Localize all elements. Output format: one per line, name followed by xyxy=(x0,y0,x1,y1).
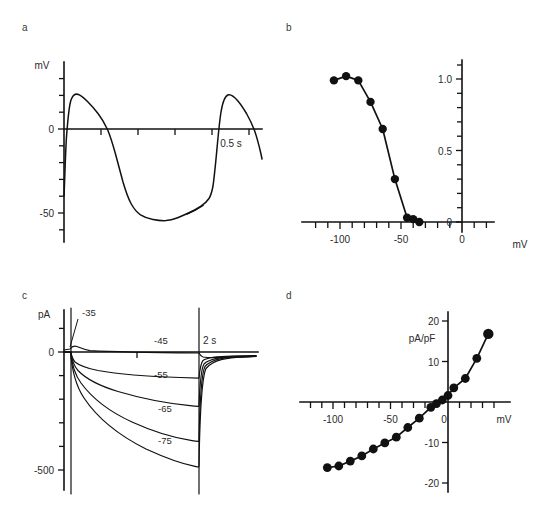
panel-d-x-axis-label: mV xyxy=(497,414,512,425)
panel-b-y-ticks xyxy=(456,65,462,222)
panel-d-xtick-minus50: -50 xyxy=(383,414,398,425)
data-point xyxy=(334,462,343,471)
panel-d: d xyxy=(272,262,547,522)
panel-a-y-ticks xyxy=(58,79,64,230)
data-point xyxy=(357,452,366,461)
panel-b-data-line xyxy=(334,76,419,222)
data-point xyxy=(379,125,387,133)
panel-a-ytick-minus50: -50 xyxy=(40,208,55,219)
data-point xyxy=(415,414,424,423)
data-point xyxy=(330,76,338,84)
panel-a-plot: mV 0 -50 0.5 s xyxy=(0,0,275,262)
panel-a-trace xyxy=(64,94,262,221)
panel-c-ytick-minus500: -500 xyxy=(34,465,54,476)
data-point xyxy=(391,175,399,183)
data-point xyxy=(472,354,481,363)
data-point xyxy=(483,329,493,339)
panel-c-y-ticks xyxy=(58,328,64,470)
panel-b-ytick-1: 1.0 xyxy=(438,74,452,85)
data-point xyxy=(346,457,355,466)
panel-c-trace-label-45: -45 xyxy=(154,335,168,346)
panel-d-x-ticks xyxy=(311,402,495,409)
panel-a-letter: a xyxy=(22,22,28,33)
panel-b: b xyxy=(272,0,547,262)
panel-d-xtick-0: 0 xyxy=(441,414,447,425)
panel-d-xtick-minus100: -100 xyxy=(323,414,343,425)
panel-c-trace-label-65: -65 xyxy=(158,403,172,414)
data-point xyxy=(366,98,374,106)
panel-c-scalebar-label: 2 s xyxy=(203,335,216,346)
panel-b-x-ticks xyxy=(316,222,487,229)
panel-b-xtick-minus100: -100 xyxy=(330,234,350,245)
data-point xyxy=(380,439,389,448)
figure-container: a xyxy=(0,0,547,522)
panel-b-data-points xyxy=(330,72,424,226)
panel-d-data-points xyxy=(323,329,494,472)
panel-d-ytick-minus10: -10 xyxy=(425,438,440,449)
panel-b-ytick-0: 0 xyxy=(446,217,452,228)
data-point xyxy=(461,374,470,383)
panel-d-ytick-20: 20 xyxy=(428,316,440,327)
panel-c-trace-label-35: -35 xyxy=(82,307,96,318)
panel-b-letter: b xyxy=(286,22,292,33)
panel-d-letter: d xyxy=(286,290,292,301)
panel-d-ytick-minus20: -20 xyxy=(425,478,440,489)
data-point xyxy=(369,445,378,454)
panel-a-trace-tail xyxy=(187,206,203,215)
data-point xyxy=(403,423,412,432)
panel-c: c pA 0 -500 -35 -45 -55 xyxy=(0,262,275,522)
data-point xyxy=(354,76,362,84)
panel-b-x-axis-label: mV xyxy=(513,239,528,250)
panel-c-ytick-0: 0 xyxy=(48,347,54,358)
panel-c-plot: pA 0 -500 -35 -45 -55 -65 -75 2 s xyxy=(0,262,275,522)
panel-b-xtick-minus50: -50 xyxy=(394,234,409,245)
data-point xyxy=(444,391,453,400)
panel-a-x-ticks xyxy=(101,129,249,135)
data-point xyxy=(415,218,423,226)
panel-b-xtick-0: 0 xyxy=(459,234,465,245)
data-point xyxy=(342,72,350,80)
panel-a-scalebar-label: 0.5 s xyxy=(220,138,242,149)
panel-c-trace-label-75: -75 xyxy=(158,435,172,446)
data-point xyxy=(323,463,332,472)
panel-c-trace--65 xyxy=(64,352,256,442)
panel-b-ytick-05: 0.5 xyxy=(438,146,452,157)
panel-b-plot: -100 -50 0 mV 1.0 0.5 0 xyxy=(272,0,547,262)
panel-a-y-axis-label: mV xyxy=(35,60,50,71)
panel-d-data-line xyxy=(327,334,488,468)
panel-d-ytick-10: 10 xyxy=(428,357,440,368)
data-point xyxy=(449,383,458,392)
data-point xyxy=(392,433,401,442)
panel-c-letter: c xyxy=(22,290,27,301)
panel-c-y-axis-label: pA xyxy=(38,309,51,320)
panel-d-plot: -100 -50 0 mV 20 10 -10 -20 pA/pF xyxy=(272,262,547,522)
panel-a-ytick-0: 0 xyxy=(48,124,54,135)
panel-c-trace-label-55: -55 xyxy=(154,369,168,380)
panel-d-y-axis-label: pA/pF xyxy=(409,333,436,344)
panel-a: a xyxy=(0,0,275,262)
